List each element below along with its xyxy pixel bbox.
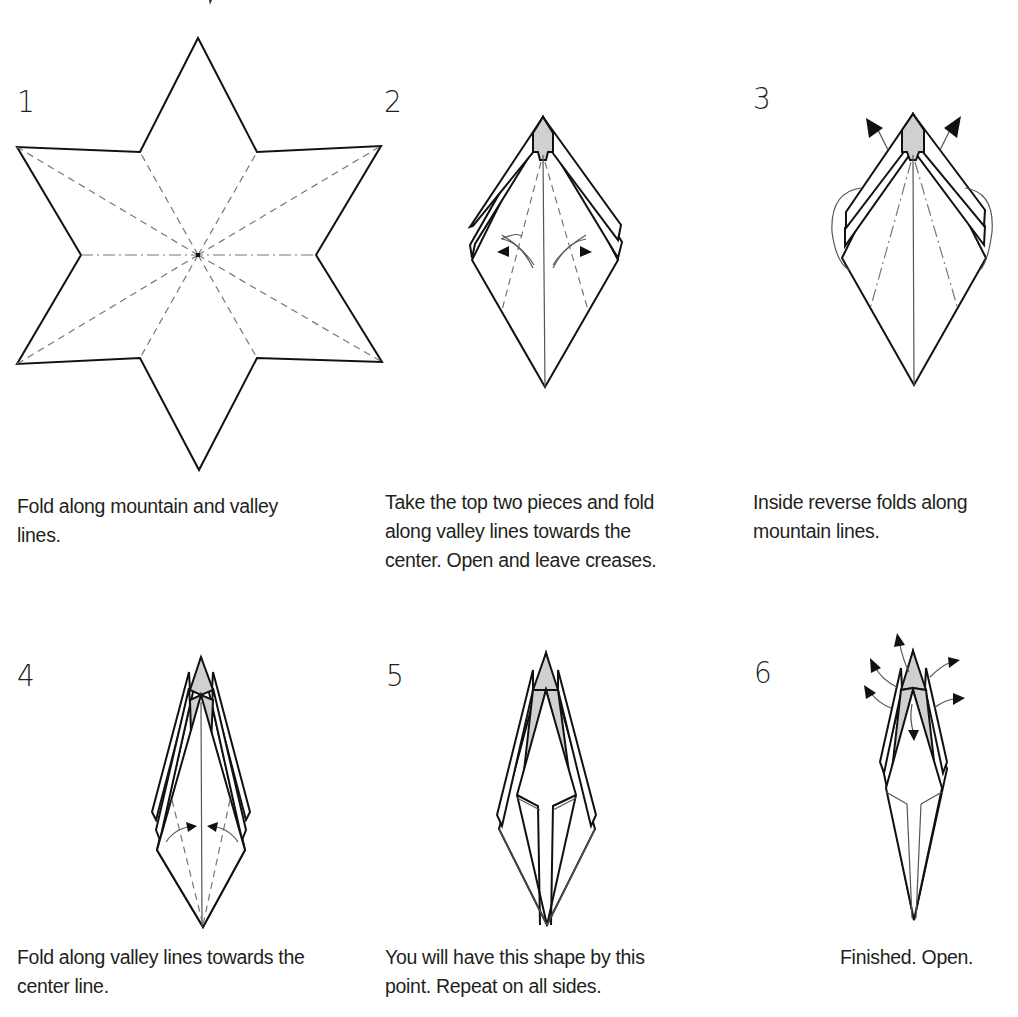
caption-line: lines. (17, 521, 357, 550)
caption-line: center line. (17, 972, 367, 1001)
step-6-finished-figure (864, 633, 965, 920)
step-6-caption: Finished. Open. (840, 943, 1010, 972)
step-2-kite-figure (470, 117, 622, 387)
caption-line: You will have this shape by this (385, 943, 725, 972)
step-1-caption: Fold along mountain and valley lines. (17, 492, 357, 550)
step-5-shape-figure (497, 653, 596, 925)
caption-line: along valley lines towards the (385, 517, 725, 546)
caption-line: mountain lines. (753, 517, 1018, 546)
caption-line: Take the top two pieces and fold (385, 488, 725, 517)
caption-line: Fold along valley lines towards the (17, 943, 367, 972)
center-point (196, 253, 200, 257)
caption-line: Finished. Open. (840, 943, 1010, 972)
step-5-caption: You will have this shape by this point. … (385, 943, 725, 1001)
caption-line: Fold along mountain and valley (17, 492, 357, 521)
step-3-kite-figure (832, 114, 992, 385)
step-4-caption: Fold along valley lines towards the cent… (17, 943, 367, 1001)
caption-line: Inside reverse folds along (753, 488, 1018, 517)
step-1-star-figure (17, 38, 382, 470)
caption-line: center. Open and leave creases. (385, 546, 725, 575)
step-4-point-figure (152, 657, 250, 927)
step-2-caption: Take the top two pieces and fold along v… (385, 488, 725, 575)
caption-line: point. Repeat on all sides. (385, 972, 725, 1001)
step-3-caption: Inside reverse folds along mountain line… (753, 488, 1018, 546)
